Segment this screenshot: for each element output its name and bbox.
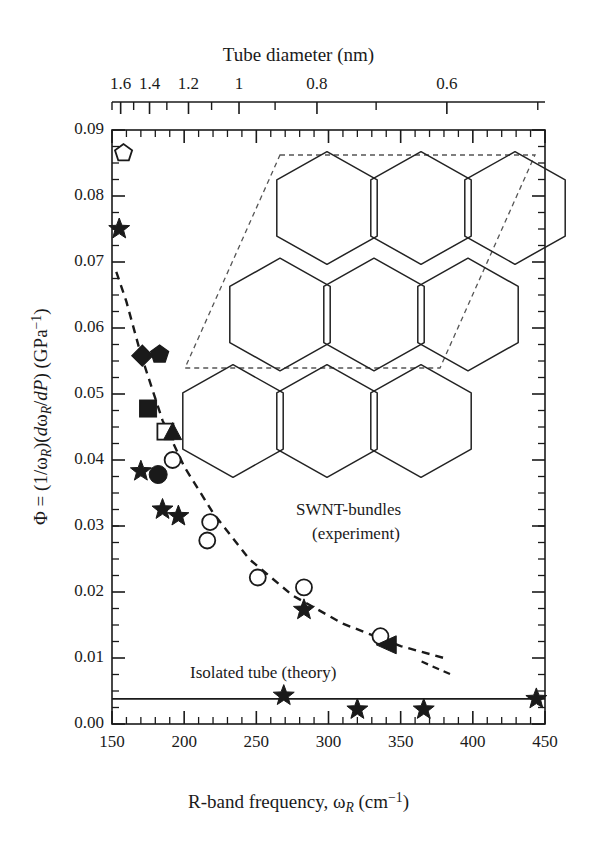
y-axis-tick-label: 0.09 xyxy=(44,119,104,139)
data-point-filled-diamond xyxy=(132,345,153,366)
x-axis-tick-label: 150 xyxy=(82,732,142,752)
x-axis-ticks xyxy=(112,130,545,724)
plot-frame xyxy=(112,130,545,724)
top-axis-ticks xyxy=(112,102,538,114)
x-axis-tick-label: 250 xyxy=(226,732,286,752)
y-axis-tick-label: 0.08 xyxy=(44,185,104,205)
data-point-filled-star xyxy=(413,698,434,718)
data-point-filled-square xyxy=(140,400,157,417)
top-axis-tick-label: 0.8 xyxy=(287,74,347,94)
data-point-filled-star xyxy=(347,698,368,718)
x-axis-tick-label: 200 xyxy=(154,732,214,752)
data-point-filled-star xyxy=(130,460,151,480)
figure-container: Tube diameter (nm) R-band frequency, ωR … xyxy=(0,0,597,852)
inset-hexagon-tube xyxy=(277,365,377,478)
data-point-filled-pentagon xyxy=(151,345,169,362)
y-axis-tick-label: 0.00 xyxy=(44,713,104,733)
x-axis-tick-label: 350 xyxy=(371,732,431,752)
data-point-open-circle xyxy=(250,569,266,585)
inset-hexagon-tube xyxy=(324,258,424,371)
data-point-open-circle xyxy=(199,533,215,549)
y-axis-tick-label: 0.04 xyxy=(44,449,104,469)
y-axis-tick-label: 0.03 xyxy=(44,515,104,535)
data-point-filled-star xyxy=(273,685,294,705)
y-axis-tick-label: 0.02 xyxy=(44,581,104,601)
y-axis-tick-label: 0.05 xyxy=(44,383,104,403)
y-axis-ticks xyxy=(112,130,545,724)
inset-hexagon-tube xyxy=(230,258,330,371)
x-axis-tick-label: 300 xyxy=(299,732,359,752)
data-markers xyxy=(109,144,547,718)
y-axis-tick-label: 0.01 xyxy=(44,647,104,667)
x-axis-tick-label: 450 xyxy=(515,732,575,752)
top-axis-tick-label: 1 xyxy=(209,74,269,94)
inset-bundle-diagram xyxy=(183,152,565,478)
inset-hexagons xyxy=(183,152,565,478)
y-axis-tick-label: 0.06 xyxy=(44,317,104,337)
data-point-filled-star xyxy=(152,499,173,519)
inset-hexagon-tube xyxy=(418,258,518,371)
data-point-open-circle xyxy=(165,452,181,468)
inset-hexagon-tube xyxy=(371,152,471,265)
data-point-filled-circle xyxy=(149,466,167,484)
inset-hexagon-tube xyxy=(277,152,377,265)
inset-hexagon-tube xyxy=(465,152,565,265)
x-axis-tick-label: 400 xyxy=(443,732,503,752)
annotation-leader-line xyxy=(418,660,450,674)
top-axis-tick-label: 0.6 xyxy=(417,74,477,94)
data-point-filled-star xyxy=(294,599,315,619)
data-point-open-circle xyxy=(202,514,218,530)
y-axis-tick-label: 0.07 xyxy=(44,251,104,271)
data-point-open-circle xyxy=(296,579,312,595)
inset-hexagon-tube xyxy=(183,365,283,478)
inset-hexagon-tube xyxy=(371,365,471,478)
inset-rhombus-outline xyxy=(185,155,535,368)
